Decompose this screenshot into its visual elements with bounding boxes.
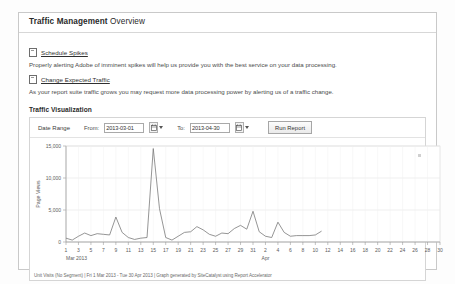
svg-text:1: 1 [65,247,68,253]
svg-text:5: 5 [90,247,93,253]
to-date-input[interactable] [190,123,230,133]
svg-text:21: 21 [188,247,194,253]
calendar-icon[interactable] [149,122,158,133]
svg-text:4: 4 [277,247,280,253]
from-date-picker-group[interactable] [149,122,163,133]
svg-text:19: 19 [175,247,181,253]
svg-text:31: 31 [250,247,256,253]
schedule-spikes-description: Properly alerting Adobe of imminent spik… [29,61,426,69]
traffic-visualization-box: Date Range From: To: [29,117,426,281]
svg-text:8: 8 [301,247,304,253]
svg-text:16: 16 [350,247,356,253]
svg-text:26: 26 [412,247,418,253]
svg-text:15: 15 [150,247,156,253]
svg-text:0: 0 [58,239,61,245]
from-date-input[interactable] [104,123,144,133]
screenshot-root: Traffic Management Overview Schedule Spi… [0,0,455,284]
decorative-marker [418,154,421,157]
svg-text:14: 14 [337,247,343,253]
svg-text:Page Views: Page Views [35,180,41,208]
svg-text:10,000: 10,000 [46,175,62,181]
svg-text:9: 9 [114,247,117,253]
change-expected-traffic-link-row[interactable]: Change Expected Traffic [29,75,426,84]
run-report-button[interactable]: Run Report [268,121,312,134]
svg-text:23: 23 [200,247,206,253]
document-icon [29,75,37,84]
svg-text:15,000: 15,000 [46,143,62,149]
svg-text:2: 2 [264,247,267,253]
schedule-spikes-link-row[interactable]: Schedule Spikes [29,48,426,57]
page-title-bold: Traffic Management [29,17,108,26]
svg-text:5,000: 5,000 [48,207,61,213]
svg-text:18: 18 [362,247,368,253]
svg-text:27: 27 [225,247,231,253]
svg-text:3: 3 [77,247,80,253]
schedule-spikes-link[interactable]: Schedule Spikes [41,49,88,56]
date-range-toolbar: Date Range From: To: [30,118,425,138]
traffic-management-panel: Traffic Management Overview Schedule Spi… [18,12,437,270]
svg-text:11: 11 [126,247,131,253]
svg-text:12: 12 [325,247,331,253]
date-range-label: Date Range [38,125,70,131]
svg-text:24: 24 [400,247,406,253]
svg-text:29: 29 [238,247,244,253]
page-views-chart: 05,00010,00015,000Page Views135791113151… [30,138,425,282]
panel-header: Traffic Management Overview [19,13,436,33]
chevron-down-icon[interactable] [159,126,163,129]
svg-text:17: 17 [163,247,169,253]
change-expected-traffic-link[interactable]: Change Expected Traffic [41,76,110,83]
svg-text:30: 30 [437,247,443,253]
change-expected-traffic-description: As your report suite traffic grows you m… [29,88,426,96]
svg-text:25: 25 [213,247,219,253]
svg-text:13: 13 [138,247,144,253]
svg-text:Mar 2013: Mar 2013 [66,255,87,261]
svg-text:Apr: Apr [262,255,270,261]
to-date-picker-group[interactable] [235,122,249,133]
chart-footer-note: Unit Visits (No Segment) | Fri 1 Mar 201… [34,273,272,278]
traffic-visualization-heading: Traffic Visualization [29,106,426,113]
svg-text:6: 6 [289,247,292,253]
svg-text:7: 7 [102,247,105,253]
chevron-down-icon[interactable] [245,126,249,129]
page-title: Traffic Management Overview [29,17,436,26]
page-title-rest: Overview [108,17,145,26]
from-label: From: [84,125,99,131]
document-icon [29,48,37,57]
to-label: To: [177,125,185,131]
svg-text:20: 20 [375,247,381,253]
chart-svg: 05,00010,00015,000Page Views135791113151… [30,138,447,282]
svg-text:10: 10 [313,247,319,253]
panel-body: Schedule Spikes Properly alerting Adobe … [19,33,436,281]
calendar-icon[interactable] [235,122,244,133]
svg-text:28: 28 [425,247,431,253]
svg-text:22: 22 [387,247,393,253]
